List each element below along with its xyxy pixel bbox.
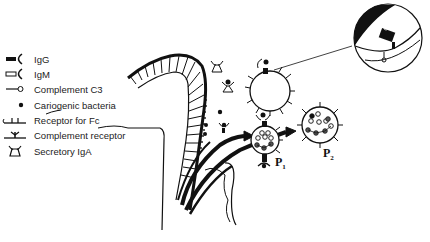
phagocyte-p2 — [297, 102, 343, 148]
antibodies-and-bacteria — [203, 61, 234, 136]
diagram-canvas — [0, 0, 430, 242]
zoom-inset — [350, 4, 422, 72]
tooth-illustration — [46, 55, 236, 230]
label-p1: P1 — [275, 155, 286, 171]
phagocyte-top — [245, 46, 352, 116]
label-p2: P2 — [323, 146, 334, 162]
